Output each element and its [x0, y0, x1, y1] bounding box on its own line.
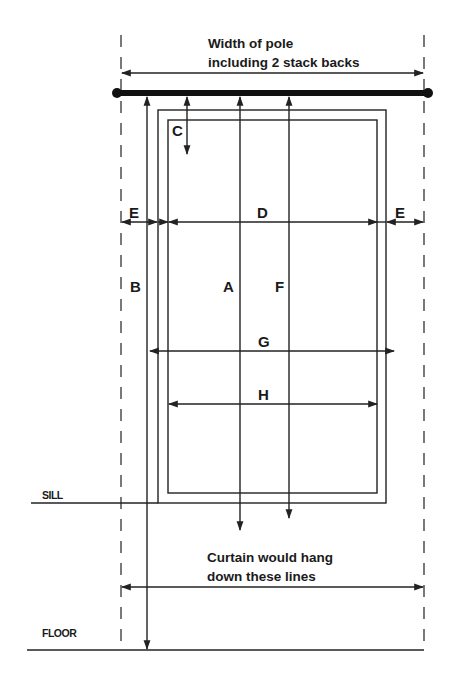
- window-outer-frame: [158, 110, 386, 503]
- label-b: B: [130, 278, 141, 295]
- floor-label: FLOOR: [42, 627, 77, 639]
- sill-label: SILL: [42, 489, 64, 501]
- label-g: G: [258, 333, 270, 350]
- label-f: F: [275, 278, 284, 295]
- label-e-right: E: [395, 204, 405, 221]
- pole-finial-right: [423, 88, 433, 98]
- curtain-note-line1: Curtain would hang: [207, 550, 333, 565]
- label-e-left: E: [129, 204, 139, 221]
- pole-width-label-line2: including 2 stack backs: [208, 55, 360, 70]
- window-inner-frame: [168, 120, 377, 493]
- label-c: C: [172, 122, 183, 139]
- label-d: D: [257, 204, 268, 221]
- pole-width-label-line1: Width of pole: [208, 36, 294, 51]
- label-a: A: [223, 278, 234, 295]
- pole-finial-left: [112, 88, 122, 98]
- curtain-note-line2: down these lines: [207, 569, 316, 584]
- label-h: H: [258, 386, 269, 403]
- curtain-measurement-diagram: Width of pole including 2 stack backs Cu…: [0, 0, 454, 680]
